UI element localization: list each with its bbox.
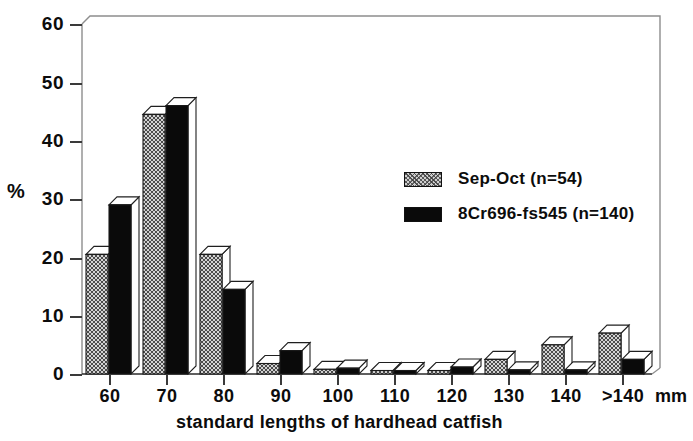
chart-figure: 60 50 40 30 20 10 0 % 60 70 80 90 100 11… [0, 0, 693, 441]
y-tick-60 [70, 24, 82, 26]
x-tick-140 [565, 374, 567, 385]
y-tick-30 [70, 199, 82, 201]
x-tick-110 [394, 374, 396, 385]
x-tick-70 [166, 374, 168, 385]
x-tick-label-130: 130 [481, 386, 537, 407]
y-tick-label-60: 60 [18, 13, 64, 35]
x-tick-label-140: 140 [538, 386, 594, 407]
x-tick->140 [622, 374, 624, 385]
y-tick-label-40: 40 [18, 130, 64, 152]
hatched-gray-swatch-icon [404, 172, 442, 187]
y-tick-label-0: 0 [18, 363, 64, 385]
x-tick-130 [508, 374, 510, 385]
x-axis-unit: mm [655, 386, 687, 407]
x-tick-label-120: 120 [424, 386, 480, 407]
legend: Sep-Oct (n=54) 8Cr696-fs545 (n=140) [404, 166, 635, 227]
x-tick-label-80: 80 [196, 386, 252, 407]
x-tick-label-90: 90 [253, 386, 309, 407]
x-axis-title: standard lengths of hardhead catfish [176, 412, 503, 433]
x-tick-100 [337, 374, 339, 385]
y-tick-label-50: 50 [18, 72, 64, 94]
legend-entry-second: 8Cr696-fs545 (n=140) [404, 201, 635, 227]
x-tick-label-100: 100 [310, 386, 366, 407]
legend-label-sep-oct: Sep-Oct (n=54) [458, 169, 583, 189]
y-tick-50 [70, 83, 82, 85]
solid-black-swatch-icon [404, 207, 442, 222]
x-tick-60 [109, 374, 111, 385]
y-tick-label-10: 10 [18, 305, 64, 327]
x-tick-label-gt140: >140 [592, 386, 654, 407]
y-tick-20 [70, 258, 82, 260]
x-tick-label-70: 70 [139, 386, 195, 407]
x-tick-90 [280, 374, 282, 385]
y-axis-title: % [7, 180, 25, 203]
x-tick-80 [223, 374, 225, 385]
y-tick-10 [70, 316, 82, 318]
y-tick-40 [70, 141, 82, 143]
y-tick-label-20: 20 [18, 247, 64, 269]
x-tick-label-60: 60 [82, 386, 138, 407]
x-tick-label-110: 110 [367, 386, 423, 407]
x-tick-120 [451, 374, 453, 385]
y-tick-0 [70, 374, 82, 376]
legend-entry-sep-oct: Sep-Oct (n=54) [404, 166, 635, 192]
legend-label-second: 8Cr696-fs545 (n=140) [458, 204, 635, 224]
